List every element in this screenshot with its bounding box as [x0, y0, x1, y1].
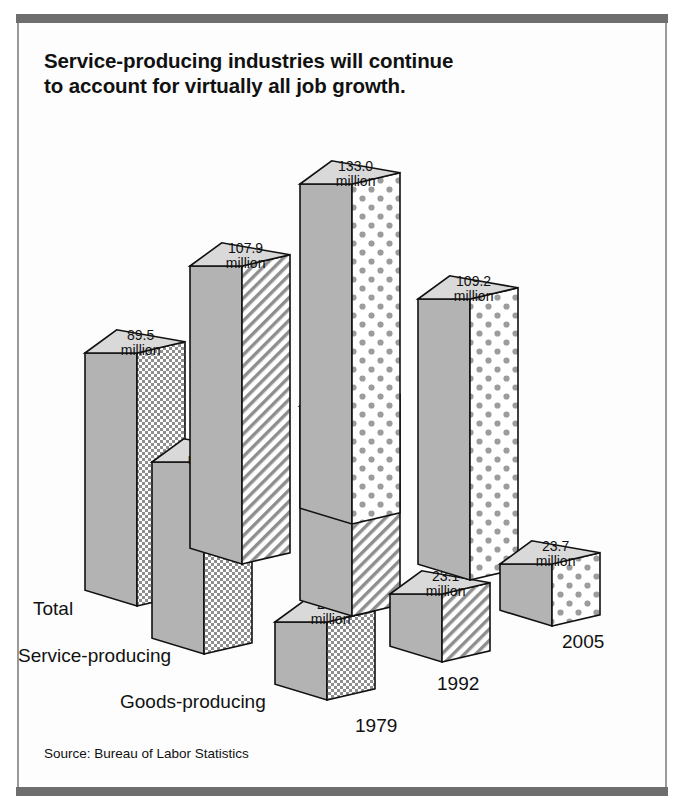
bar-unit-label: million [336, 173, 376, 189]
bar-face-left [275, 622, 327, 700]
bar-service-2005: 109.2million [418, 273, 518, 580]
axis-label-goods-producing: Goods-producing [120, 691, 266, 712]
bar-face-right [352, 173, 400, 524]
bar-unit-label: million [536, 553, 576, 569]
axis-label-total: Total [33, 598, 73, 619]
bar-value-label: 109.2 [456, 273, 491, 289]
bar-face-right [470, 288, 518, 580]
bar-value-label: 107.9 [228, 240, 263, 256]
bar-total-1992: 107.9million [190, 240, 290, 564]
source-note: Source: Bureau of Labor Statistics [44, 746, 249, 761]
bar-value-label: 133.0 [338, 158, 373, 174]
axis-label-1992: 1992 [437, 673, 479, 694]
axis-label-2005: 2005 [562, 631, 604, 652]
axis-label-service-producing: Service-producing [18, 645, 171, 666]
bar-face-right [242, 255, 290, 564]
bar-chart-3d: 89.5million63.0million26.5million107.9mi… [16, 14, 668, 796]
bar-unit-label: million [121, 342, 161, 358]
bar-unit-label: million [226, 255, 266, 271]
bar-unit-label: million [454, 288, 494, 304]
bar-face-left [85, 353, 137, 606]
chart-figure: Service-producing industries will contin… [0, 0, 682, 805]
bar-goods-1992: 23.1million [390, 568, 490, 662]
bars-layer: 89.5million63.0million26.5million107.9mi… [85, 158, 600, 700]
bar-face-left [190, 266, 242, 564]
bar-unit-label: million [426, 583, 466, 599]
bar-face-left [418, 299, 470, 580]
bar-value-label: 23.7 [542, 538, 569, 554]
bar-value-label: 89.5 [127, 327, 154, 343]
bar-face-left [300, 184, 352, 524]
axis-label-1979: 1979 [355, 715, 397, 736]
bar-total-2005: 133.0million [300, 158, 400, 524]
bar-face-left [500, 564, 552, 626]
bar-face-left [390, 594, 442, 662]
